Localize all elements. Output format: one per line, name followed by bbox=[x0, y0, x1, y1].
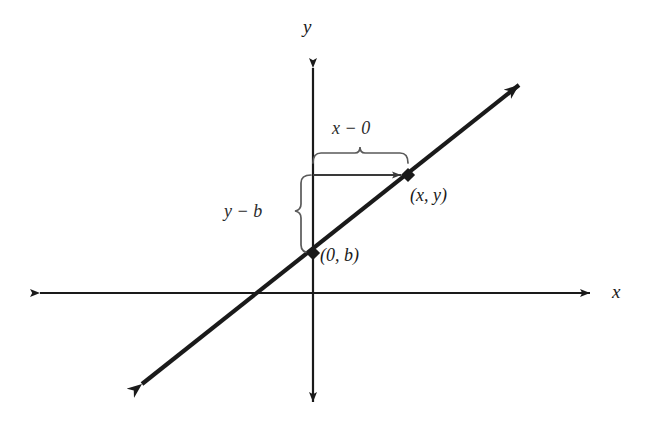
point-label-xy: (x, y) bbox=[410, 185, 447, 206]
graphed-line bbox=[142, 85, 519, 384]
x-axis-label: x bbox=[612, 281, 620, 303]
rise-measure-label: y − b bbox=[224, 201, 262, 222]
rise-brace bbox=[295, 175, 311, 253]
point-marker-0b bbox=[306, 246, 320, 260]
slope-diagram bbox=[0, 0, 645, 436]
run-measure-label: x − 0 bbox=[332, 118, 370, 139]
y-axis-label: y bbox=[303, 16, 311, 38]
point-label-0b: (0, b) bbox=[320, 245, 359, 266]
run-brace bbox=[313, 147, 408, 163]
